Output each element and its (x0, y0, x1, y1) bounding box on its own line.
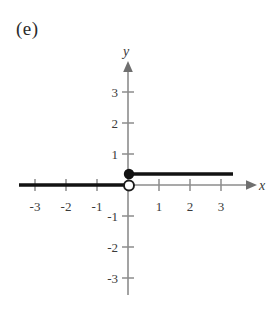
axes-group (19, 61, 257, 295)
x-axis-label: x (258, 178, 266, 193)
y-tick-label-pos2: 2 (112, 116, 119, 131)
open-endpoint-circle (124, 181, 134, 191)
x-tick-label-pos1: 1 (156, 199, 163, 214)
closed-endpoint-dot (124, 169, 134, 179)
y-axis-label: y (121, 44, 130, 59)
x-tick-label-neg1: -1 (92, 199, 103, 214)
x-tick-label-pos3: 3 (218, 199, 225, 214)
figure-container: (e) (0, 0, 277, 311)
x-tick-label-neg3: -3 (30, 199, 41, 214)
x-tick-label-neg2: -2 (61, 199, 72, 214)
x-axis-arrowhead (246, 180, 257, 190)
y-tick-label-neg2: -2 (107, 240, 118, 255)
endpoints-group (124, 169, 134, 191)
y-tick-label-pos1: 1 (112, 147, 119, 162)
y-tick-label-neg3: -3 (107, 271, 118, 286)
coordinate-plot: -3 -2 -1 1 2 3 1 2 3 -1 -2 -3 x y (0, 0, 277, 311)
y-tick-label-neg1: -1 (107, 209, 118, 224)
y-axis-arrowhead (123, 61, 133, 72)
x-tick-label-pos2: 2 (187, 199, 194, 214)
y-tick-label-pos3: 3 (112, 85, 119, 100)
x-tick-labels: -3 -2 -1 1 2 3 (30, 199, 225, 214)
